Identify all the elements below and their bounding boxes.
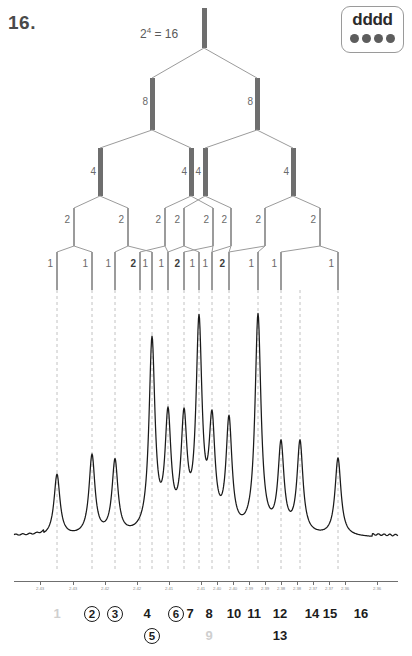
axis-tick-label: 2.43 [69,586,77,591]
peak-number-4: 4 [143,606,150,621]
axis-tick-label: 2.38 [293,586,301,591]
axis-tick [249,581,250,585]
axis-tick [265,581,266,585]
axis-tick [169,581,170,585]
axis-tick-label: 2.39 [261,586,269,591]
axis-tick [233,581,234,585]
axis-tick [329,581,330,585]
axis-tick-label: 2.38 [277,586,285,591]
peak-number-2: 2 [84,606,100,622]
peak-number-13: 13 [273,628,287,643]
axis-tick [377,581,378,585]
figure-root: 16. 24 = 16 dddd 88444422222222111211211… [0,0,412,656]
peak-number-11: 11 [247,606,261,621]
peak-number-5: 5 [144,628,160,644]
peak-number-10: 10 [227,606,241,621]
nmr-spectrum [0,290,412,575]
axis-tick [201,581,202,585]
axis-tick [40,581,41,585]
axis-tick [73,581,74,585]
peak-number-1: 1 [53,606,60,621]
peak-number-labels: 12345678910111213141516 [0,600,412,656]
peak-number-12: 12 [273,606,287,621]
spectrum-trace [14,313,398,536]
axis-tick-label: 2.37 [325,586,333,591]
axis-tick [281,581,282,585]
axis-tick-label: 2.36 [341,586,349,591]
peak-number-9: 9 [205,628,212,643]
axis-tick-label: 2.42 [101,586,109,591]
axis-tick-label: 2.39 [245,586,253,591]
axis-tick [217,581,218,585]
axis-tick [105,581,106,585]
axis-tick-label: 2.40 [229,586,237,591]
peak-number-16: 16 [354,606,368,621]
splitting-tree: 884444222222221112112112111 [0,0,412,290]
tree-leaf-guides [0,0,412,290]
peak-number-7: 7 [186,606,193,621]
axis-tick-label: 2.41 [197,586,205,591]
chemical-shift-axis: 2.432.432.422.422.412.412.402.402.392.39… [0,566,412,596]
peak-number-6: 6 [168,606,184,622]
spectrum-plot [0,290,412,575]
peak-number-8: 8 [205,606,212,621]
peak-number-15: 15 [323,606,337,621]
axis-tick [137,581,138,585]
axis-tick-label: 2.36 [373,586,381,591]
axis-tick-label: 2.40 [213,586,221,591]
axis-tick [345,581,346,585]
axis-tick-label: 2.37 [309,586,317,591]
axis-tick [297,581,298,585]
axis-tick-label: 2.42 [133,586,141,591]
axis-tick-label: 2.41 [165,586,173,591]
peak-number-3: 3 [107,606,123,622]
axis-line [14,581,398,582]
axis-tick-label: 2.43 [36,586,44,591]
peak-number-14: 14 [305,606,319,621]
axis-tick [313,581,314,585]
